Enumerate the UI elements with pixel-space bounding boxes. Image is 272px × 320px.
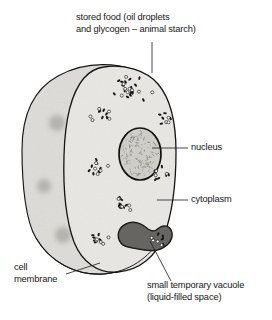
label-vacuole: small temporary vacuole (liquid-filled s…: [147, 280, 244, 303]
granule-open: [131, 89, 134, 92]
label-vacuole-line1: small temporary vacuole: [147, 280, 244, 292]
granule-open: [95, 162, 98, 165]
granule-open: [150, 236, 153, 239]
granule-open: [107, 164, 110, 167]
granule-open: [108, 117, 111, 120]
smudge-lower: [55, 227, 71, 243]
granule-open: [137, 90, 140, 93]
granule-open: [96, 173, 99, 176]
granule-open: [89, 115, 92, 118]
smudge-mid: [37, 179, 51, 193]
granule-open: [120, 94, 123, 97]
label-stored-food-line2: and glycogen – animal starch): [76, 24, 196, 36]
label-nucleus: nucleus: [191, 142, 222, 154]
granule-open: [117, 197, 120, 200]
label-cell-membrane-line1: cell: [14, 262, 57, 274]
granule-open: [95, 238, 98, 241]
granule-open: [167, 116, 170, 119]
granule-open: [124, 87, 127, 90]
label-cell-membrane: cell membrane: [14, 262, 57, 285]
granule-open: [108, 110, 111, 113]
label-cytoplasm: cytoplasm: [191, 194, 232, 206]
granule-open: [128, 204, 131, 207]
label-vacuole-line2: (liquid-filled space): [147, 292, 244, 304]
granule-open: [122, 83, 125, 86]
granule-open: [155, 170, 158, 173]
granule-open: [160, 244, 163, 247]
granule-open: [165, 172, 168, 175]
granule-open: [126, 91, 129, 94]
granule-open: [107, 236, 110, 239]
granule-open: [156, 240, 159, 243]
granule-open: [91, 119, 94, 122]
granule-open: [167, 121, 170, 124]
granule-open: [98, 107, 101, 110]
granule-open: [154, 174, 157, 177]
granule-open: [125, 75, 128, 78]
label-cytoplasm-text: cytoplasm: [191, 194, 232, 206]
granule-open: [121, 205, 124, 208]
smudge-upper: [49, 115, 65, 131]
cell-diagram: stored food (oil droplets and glycogen –…: [0, 0, 272, 320]
granule-open: [99, 169, 102, 172]
granule-open: [129, 209, 132, 212]
label-cell-membrane-line2: membrane: [14, 274, 57, 286]
granule-open: [99, 241, 102, 244]
label-nucleus-text: nucleus: [191, 142, 222, 154]
label-stored-food: stored food (oil droplets and glycogen –…: [76, 12, 196, 35]
label-stored-food-line1: stored food (oil droplets: [76, 12, 196, 24]
granule-open: [151, 91, 154, 94]
granule-open: [94, 167, 97, 170]
